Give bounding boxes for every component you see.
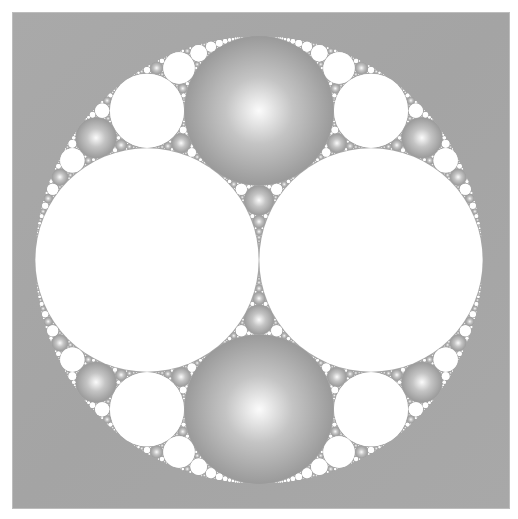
apollonian-gasket-image: [0, 0, 518, 519]
